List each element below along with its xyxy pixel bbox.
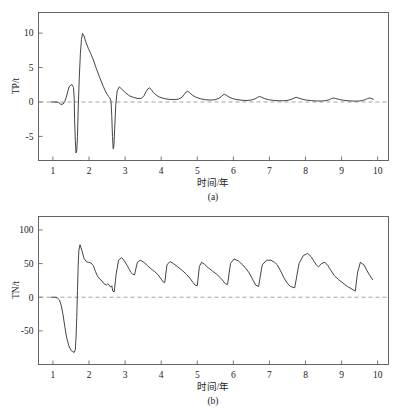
x-axis-tick-labels-a: 12345678910 [51,166,383,176]
x-tick-label: 7 [267,370,272,380]
x-tick-label: 9 [339,166,344,176]
x-tick-label: 3 [123,166,128,176]
data-series-tp [51,34,373,153]
x-axis-ticks-a [53,157,378,161]
data-series-tn [51,245,372,353]
x-axis-title-a: 时间/年 [197,177,230,188]
x-tick-label: 5 [195,370,200,380]
y-axis-title-a: TP/t [11,77,21,94]
panel-caption-a: (a) [208,192,219,203]
x-tick-label: 9 [339,370,344,380]
x-tick-label: 6 [231,166,236,176]
x-tick-label: 4 [159,166,164,176]
plot-frame-a [39,13,389,161]
x-tick-label: 8 [303,370,308,380]
y-tick-label: 50 [24,259,34,269]
plot-frame-b [39,217,389,365]
chart-svg-a: -50510 12345678910 TP/t 时间/年 (a) [0,0,400,204]
chart-panel-b: -50050100 12345678910 TN/t 时间/年 (b) [0,204,400,408]
y-axis-ticks-b [39,230,43,331]
x-tick-label: 1 [51,370,56,380]
y-tick-label: 100 [19,225,34,235]
x-tick-label: 3 [123,370,128,380]
x-tick-label: 1 [51,166,56,176]
x-tick-label: 6 [231,370,236,380]
x-axis-ticks-b [53,361,378,365]
x-tick-label: 10 [373,166,383,176]
x-axis-tick-labels-b: 12345678910 [51,370,383,380]
y-tick-label: 5 [29,63,34,73]
y-axis-tick-labels-a: -50510 [24,28,34,141]
x-tick-label: 8 [303,166,308,176]
x-tick-label: 7 [267,166,272,176]
x-tick-label: 2 [87,166,92,176]
panel-caption-b: (b) [207,396,218,407]
y-tick-label: 10 [24,28,34,38]
y-axis-tick-labels-b: -50050100 [19,225,34,336]
x-tick-label: 2 [87,370,92,380]
y-axis-title-b: TN/t [11,281,21,299]
y-axis-ticks-a [39,33,43,136]
x-axis-title-b: 时间/年 [197,381,230,392]
y-tick-label: 0 [29,293,34,303]
figure-container: -50510 12345678910 TP/t 时间/年 (a) -500501… [0,0,400,408]
x-tick-label: 10 [373,370,383,380]
y-tick-label: -5 [26,132,34,142]
chart-svg-b: -50050100 12345678910 TN/t 时间/年 (b) [0,204,400,408]
x-tick-label: 5 [195,166,200,176]
y-tick-label: -50 [21,326,34,336]
y-tick-label: 0 [29,97,34,107]
x-tick-label: 4 [159,370,164,380]
chart-panel-a: -50510 12345678910 TP/t 时间/年 (a) [0,0,400,204]
